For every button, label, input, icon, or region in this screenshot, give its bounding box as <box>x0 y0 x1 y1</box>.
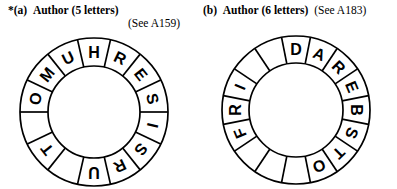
wheel-cell-letter: R <box>329 57 350 78</box>
wheel-cell-letter: M <box>36 64 58 85</box>
wheel-cell-letter: I <box>144 121 162 129</box>
wheel-a-puzzle: HRESISRUTOMU <box>17 35 171 189</box>
wheel-cell-letter: S <box>131 140 151 159</box>
wheel-cell-letter: E <box>342 79 362 96</box>
wheel-segment-divider <box>223 96 249 101</box>
wheel-b-puzzle: DAREBSTOFRI <box>219 33 373 187</box>
wheel-cell-letter: S <box>143 92 162 107</box>
wheel-segment-divider <box>342 119 368 124</box>
wheel-cell-letter: R <box>111 156 129 177</box>
wheel-segment-divider <box>305 156 310 182</box>
part-a-answer-reference: (See A159) <box>128 17 180 29</box>
wheel-cell-letter: E <box>131 65 151 84</box>
wheel-segment-divider <box>104 157 110 184</box>
wheel-cell-letter: O <box>310 156 328 176</box>
part-b-heading: (b) Author (6 letters) (See A183) <box>203 4 366 16</box>
wheel-cell-letter: T <box>329 143 348 162</box>
wheel-cell-letter: S <box>342 125 362 142</box>
part-a-id: (a) <box>14 4 27 16</box>
part-b-id: (b) <box>203 4 217 16</box>
wheel-segment-divider <box>78 157 84 184</box>
wheel-segment-divider <box>342 96 368 101</box>
wheel-cell-letter: T <box>37 140 57 158</box>
wheel-segment-divider <box>282 156 287 182</box>
wheel-segment-divider <box>78 40 84 67</box>
part-a-heading: *(a) Author (5 letters) <box>8 4 119 16</box>
wheel-inner-circle <box>48 66 140 158</box>
wheel-inner-circle <box>249 63 343 157</box>
wheel-cell-letter: D <box>290 41 302 58</box>
wheel-segment-divider <box>305 37 310 63</box>
part-a-clue-word: Author <box>33 4 69 16</box>
wheel-cell-letter: U <box>88 164 100 181</box>
wheel-cell-letter: F <box>230 125 250 141</box>
wheel-segment-divider <box>282 37 287 63</box>
part-b-answer-reference: (See A183) <box>314 4 366 16</box>
wheel-cell-letter: O <box>26 91 45 107</box>
wheel-segment-divider <box>104 40 110 67</box>
wheel-cell-letter: R <box>227 104 244 116</box>
wheel-cell-letter: R <box>111 48 129 69</box>
wheel-segment-divider <box>255 149 270 171</box>
wheel-segment-divider <box>234 69 256 84</box>
wheel-cell-letter: A <box>311 44 329 64</box>
part-a-letter-count: (5 letters) <box>72 4 119 16</box>
wheel-cell-letter: H <box>88 44 100 61</box>
wheel-cell-letter: I <box>231 82 248 93</box>
wheel-segment-divider <box>255 48 270 70</box>
part-b-letter-count: (6 letters) <box>261 4 308 16</box>
wheel-cell-letter: B <box>348 104 365 116</box>
wheel-cell-letter: U <box>59 48 77 68</box>
wheel-outer-circle <box>222 36 370 184</box>
wheel-segment-divider <box>223 119 249 124</box>
puzzle-page: *(a) Author (5 letters) (See A159) (b) A… <box>0 0 397 189</box>
part-b-clue-word: Author <box>223 4 259 16</box>
